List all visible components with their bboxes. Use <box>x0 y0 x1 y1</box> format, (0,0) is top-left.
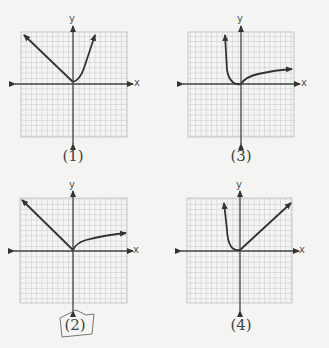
graph-panel-4: x y (4) <box>0 0 329 348</box>
coordinate-grid-4 <box>0 0 329 348</box>
x-axis-label-4: x <box>299 244 305 255</box>
y-axis-label-4: y <box>236 179 242 190</box>
graph-label-4: (4) <box>230 316 251 334</box>
